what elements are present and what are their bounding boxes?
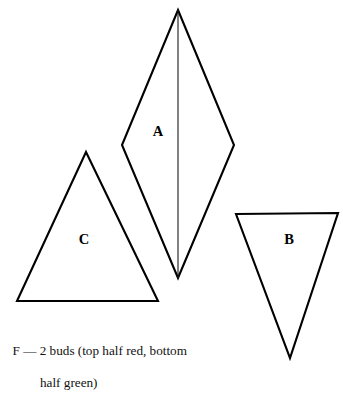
figure-caption: F — 2 buds (top half red, bottom half gr…: [6, 327, 236, 394]
shape-b-label: B: [284, 231, 294, 247]
caption-line-1: F — 2 buds (top half red, bottom: [13, 343, 187, 358]
shape-c-label: C: [79, 231, 89, 247]
caption-line-2: half green): [6, 375, 236, 391]
shape-c-triangle[interactable]: [17, 152, 158, 301]
shape-a-label: A: [153, 123, 164, 139]
